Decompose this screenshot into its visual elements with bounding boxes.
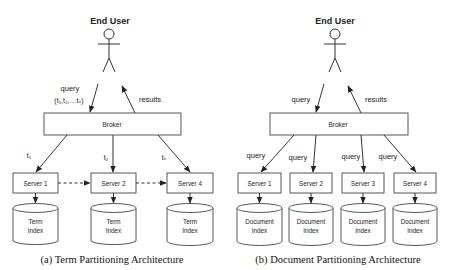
edge-label-query: query xyxy=(379,152,398,161)
results-label: results xyxy=(365,95,387,104)
term-index-database-icon: Term Index xyxy=(167,204,213,246)
panel-term-partitioning: End User query (t₁,t₂,…tₙ) results Broke… xyxy=(13,16,213,266)
index-label-line1: Term xyxy=(183,218,197,225)
results-label: results xyxy=(139,95,161,104)
edge-label-tn: tₙ xyxy=(162,154,167,161)
server-label: Server 4 xyxy=(403,180,427,187)
index-label-line1: Term xyxy=(29,218,43,225)
broker-label: Broker xyxy=(328,121,348,128)
index-label-line1: Document xyxy=(245,218,274,225)
architecture-diagram: End User query (t₁,t₂,…tₙ) results Broke… xyxy=(0,0,453,270)
document-index-database-icon: Document Index xyxy=(237,204,282,246)
index-label-line2: Index xyxy=(303,227,319,234)
query-label: query xyxy=(292,95,311,104)
end-user-label: End User xyxy=(90,16,130,26)
server-label: Server 2 xyxy=(102,180,126,187)
server-label: Server 1 xyxy=(248,180,272,187)
results-arrow xyxy=(348,86,361,113)
document-index-database-icon: Document Index xyxy=(289,204,333,246)
panel-document-partitioning: End User query results Broker query quer… xyxy=(237,16,437,266)
index-label-line2: Index xyxy=(182,227,198,234)
document-index-database-icon: Document Index xyxy=(393,204,437,246)
results-arrow xyxy=(122,86,135,113)
server-label: Server 4 xyxy=(178,180,202,187)
edge-label-query: query xyxy=(247,151,266,160)
term-index-database-icon: Term Index xyxy=(13,204,58,245)
edge-label-query: query xyxy=(289,153,308,162)
term-index-database-icon: Term Index xyxy=(91,204,136,245)
index-label-line1: Document xyxy=(297,218,326,225)
caption-b: (b) Document Partitioning Architecture xyxy=(255,254,421,266)
query-terms-label: (t₁,t₂,…tₙ) xyxy=(54,97,83,105)
edge-label-t1: t₁ xyxy=(27,152,32,159)
broker-label: Broker xyxy=(102,121,122,128)
edge-label-t2: t₂ xyxy=(104,154,109,161)
broker-to-server3-arrow xyxy=(361,135,364,172)
end-user-stick-figure-icon xyxy=(98,29,120,72)
index-label-line2: Index xyxy=(355,227,371,234)
end-user-stick-figure-icon xyxy=(324,29,346,72)
query-label: query xyxy=(61,84,80,93)
caption-a: (a) Term Partitioning Architecture xyxy=(41,254,184,266)
index-label-line1: Document xyxy=(401,218,430,225)
index-label-line2: Index xyxy=(252,227,268,234)
query-arrow xyxy=(316,84,324,112)
index-label-line2: Index xyxy=(106,227,122,234)
document-index-database-icon: Document Index xyxy=(341,204,385,246)
server-label: Server 1 xyxy=(24,180,48,187)
broker-to-server1-arrow xyxy=(36,135,67,172)
server-label: Server 2 xyxy=(299,180,323,187)
index-label-line2: Index xyxy=(28,227,44,234)
edge-label-query: query xyxy=(342,152,361,161)
query-arrow xyxy=(90,84,98,112)
server-label: Server 3 xyxy=(351,180,375,187)
broker-to-server2-arrow xyxy=(313,135,316,172)
end-user-label: End User xyxy=(315,16,355,26)
index-label-line1: Document xyxy=(349,218,378,225)
index-label-line1: Term xyxy=(107,218,121,225)
index-label-line2: Index xyxy=(407,227,423,234)
